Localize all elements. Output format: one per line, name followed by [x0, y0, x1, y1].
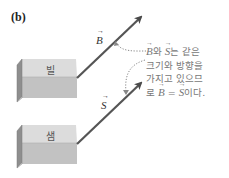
annotation-text-fragment: 이다.	[184, 87, 205, 98]
vector-s-inline: S	[165, 45, 171, 59]
equals-sign: =	[165, 87, 179, 98]
annotation-text-fragment: 는 같은	[170, 46, 200, 57]
vector-arrow-icon: →	[97, 27, 104, 35]
vector-b-inline: B	[158, 86, 165, 100]
annotation-line-2: 크기와 방향을	[146, 59, 228, 73]
vector-b-inline: B	[146, 45, 153, 59]
vector-s-inline: S	[179, 86, 185, 100]
vector-s-label: → S	[101, 99, 107, 111]
sam-label: 샘	[38, 128, 62, 143]
annotation-line-1: B와 S는 같은	[146, 45, 228, 59]
vector-b-arrow	[77, 17, 141, 78]
annotation-text: B와 S는 같은 크기와 방향을 가지고 있으므 로 B = S이다.	[146, 45, 228, 99]
vector-b-label: → B	[96, 34, 103, 46]
vector-s-arrow	[77, 83, 141, 144]
vector-s-symbol: S	[101, 99, 107, 111]
annotation-text-fragment: 로	[146, 87, 158, 98]
vector-b-symbol: B	[96, 34, 103, 46]
vector-arrow-icon: →	[102, 92, 109, 100]
annotation-line-4: 로 B = S이다.	[146, 86, 228, 100]
leader-line-b	[117, 44, 146, 51]
bill-label: 빌	[38, 62, 62, 77]
annotation-text-fragment: 와	[153, 46, 165, 57]
